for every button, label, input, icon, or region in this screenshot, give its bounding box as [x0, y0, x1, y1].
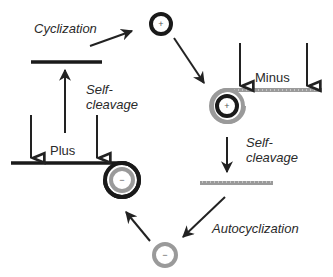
- label-self-cleavage-left-2: cleavage: [86, 97, 138, 112]
- minus-rolling-circle: +: [211, 90, 322, 122]
- minus-sign-icon: −: [162, 250, 167, 260]
- minus-sign-icon: −: [119, 175, 124, 185]
- plus-circle-top: +: [151, 14, 171, 34]
- plus-rolling-circle: −: [11, 163, 139, 197]
- arrow-to-minus-synthesis: [174, 38, 204, 83]
- arrow-to-plus-synthesis: [126, 212, 150, 241]
- label-autocyclization: Autocyclization: [211, 221, 299, 236]
- label-self-cleavage-left-1: Self-: [86, 82, 113, 97]
- rolling-circle-diagram: Cyclization + + Minus Self- cleavage Aut…: [0, 0, 333, 277]
- label-self-cleavage-right-1: Self-: [246, 135, 273, 150]
- label-plus: Plus: [50, 143, 76, 158]
- plus-sign-icon: +: [224, 101, 229, 111]
- label-cyclization: Cyclization: [34, 21, 97, 36]
- plus-sign-icon: +: [158, 19, 163, 29]
- label-minus: Minus: [255, 70, 290, 85]
- label-self-cleavage-right-2: cleavage: [246, 150, 298, 165]
- minus-circle-bottom: −: [154, 244, 176, 266]
